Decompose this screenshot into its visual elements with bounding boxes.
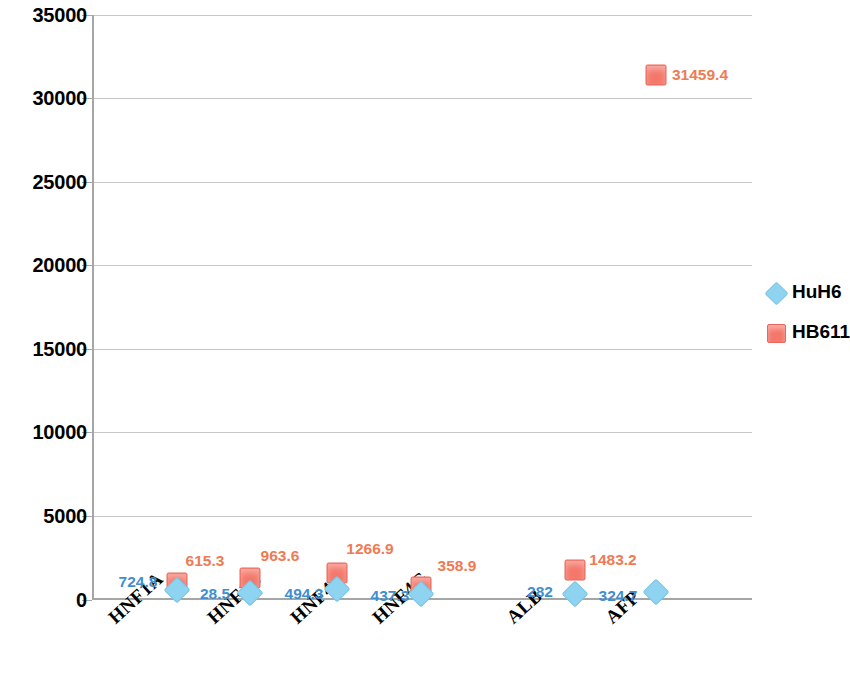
value-hb611-hnf4g: 358.9 [438,558,477,574]
y-tick-label-30000: 30000 [0,88,87,108]
gridline-10000 [94,432,752,433]
y-tick-label-35000: 35000 [0,5,87,25]
legend-swatch-diamond-icon [762,279,788,305]
gridline-15000 [94,349,752,350]
value-hb611-alb: 1483.2 [589,552,636,568]
y-tick-label-0: 0 [0,590,87,610]
legend-swatch-square-icon [762,319,788,345]
legend-item-hb611[interactable]: HB611 [762,312,849,352]
diamond-marker-icon [764,281,788,305]
value-hb611-hnf1b: 963.6 [261,548,300,564]
legend-label-hb611: HB611 [792,321,850,343]
gridline-35000 [94,15,752,16]
y-tick-label-5000: 5000 [0,506,87,526]
value-huh6-afp: 324.7 [599,588,638,604]
chart-legend: HuH6HB611 [762,272,849,352]
y-tick-label-20000: 20000 [0,255,87,275]
value-hb611-afp: 31459.4 [672,67,728,83]
gridline-5000 [94,516,752,517]
square-marker-icon [767,324,786,343]
value-huh6-hnf1b: 28.5 [200,586,230,602]
legend-item-huh6[interactable]: HuH6 [762,272,849,312]
y-tick-label-10000: 10000 [0,422,87,442]
value-hb611-hnf4a: 1266.9 [346,541,393,557]
value-huh6-hnf1a: 724.8 [119,574,158,590]
gridline-30000 [94,98,752,99]
legend-label-huh6: HuH6 [792,281,842,303]
y-tick-label-15000: 15000 [0,339,87,359]
plot-area [92,15,752,600]
value-huh6-hnf4a: 494.3 [285,586,324,602]
value-huh6-hnf4g: 437.3 [371,588,410,604]
marker-hb611-alb[interactable] [565,560,586,581]
gridline-20000 [94,265,752,266]
value-huh6-alb: 282 [527,584,553,600]
gridline-25000 [94,182,752,183]
marker-hb611-afp[interactable] [646,65,667,86]
value-hb611-hnf1a: 615.3 [186,553,225,569]
y-tick-label-25000: 25000 [0,172,87,192]
